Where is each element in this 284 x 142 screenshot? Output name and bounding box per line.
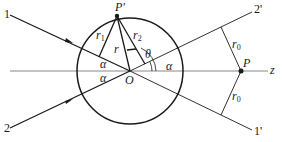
label-alpha-left-upper: α [100, 58, 106, 70]
label-p: P [243, 57, 250, 69]
label-r0-lower: r0 [232, 90, 241, 104]
ray-2 [10, 71, 130, 128]
label-r: r [114, 43, 119, 55]
point-p-prime [115, 14, 119, 18]
label-alpha-right: α [166, 60, 172, 72]
label-r0-upper: r0 [232, 38, 241, 52]
label-p-prime: P' [115, 1, 125, 13]
arrow-ray-1-icon [65, 38, 73, 43]
label-z: z [270, 64, 275, 76]
label-theta: θ [145, 48, 151, 60]
diagram-svg [0, 0, 284, 142]
label-r2: r2 [133, 29, 142, 43]
ray-1 [10, 15, 130, 71]
label-alpha-left-lower: α [100, 72, 106, 84]
diagram-canvas: 1 2 2' 1' P' P O z r1 r2 r r0 r0 θ α α α [0, 0, 284, 142]
label-ray-1: 1 [4, 8, 10, 20]
label-o: O [125, 74, 134, 86]
label-ray-2: 2 [4, 122, 10, 134]
label-r1: r1 [96, 29, 105, 43]
label-ray-1-prime: 1' [254, 125, 262, 137]
label-ray-2-prime: 2' [254, 3, 262, 15]
alpha-right-arc [150, 62, 152, 71]
r2-arrow-mark [127, 49, 136, 50]
